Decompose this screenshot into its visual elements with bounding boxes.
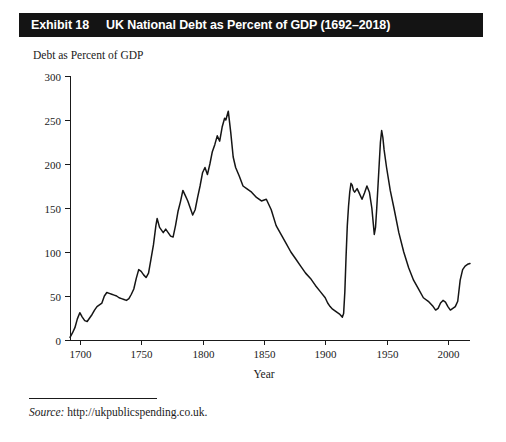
x-tick-label: 1750 [131,348,154,360]
source-word: Source: [29,406,64,418]
x-tick-label: 1800 [193,348,216,360]
x-tick-label: 1850 [254,348,277,360]
y-tick-label: 0 [56,335,62,347]
exhibit-page: Exhibit 18 UK National Debt as Percent o… [0,0,506,442]
x-tick-label: 1900 [315,348,338,360]
x-tick-label: 1950 [377,348,400,360]
source-divider [29,398,157,399]
y-tick-label: 100 [45,247,62,259]
source-url: http://ukpublicspending.co.uk. [67,406,207,418]
y-tick-label: 150 [45,203,62,215]
x-tick-label: 2000 [438,348,461,360]
x-tick-label: 1700 [70,348,93,360]
y-tick-label: 250 [45,115,62,127]
y-tick-label: 50 [50,291,62,303]
y-tick-label: 200 [45,159,62,171]
data-series-0 [70,111,470,337]
x-axis-label: Year [0,368,506,380]
source-note: Source: http://ukpublicspending.co.uk. [29,406,207,418]
y-tick-label: 300 [45,71,62,83]
